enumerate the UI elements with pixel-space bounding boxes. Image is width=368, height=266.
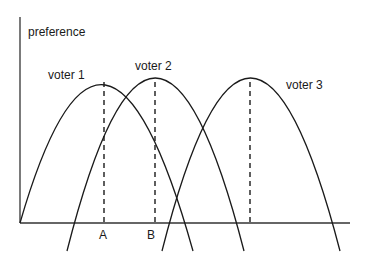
voter-1-preference-curve [20, 85, 193, 251]
voter-3-label: voter 3 [286, 78, 323, 92]
x-tick-label-b: B [147, 228, 155, 242]
x-tick-label-a: A [99, 228, 107, 242]
voter-3-preference-curve [162, 78, 340, 251]
y-axis-label: preference [28, 25, 86, 39]
voter-1-label: voter 1 [48, 68, 85, 82]
voter-2-label: voter 2 [135, 59, 172, 73]
single-peaked-preferences-diagram: preference voter 1 voter 2 voter 3 A B [0, 0, 368, 266]
